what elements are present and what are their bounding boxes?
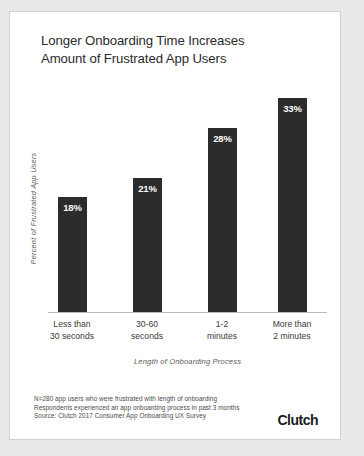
x-tick-label-line: 2 minutes [249, 331, 335, 343]
footnote-respondents: Respondents experienced an app onboardin… [34, 404, 324, 413]
x-tick-label-line: seconds [104, 331, 190, 343]
x-tick-label-line: 30-60 [104, 319, 190, 331]
chart-card: Longer Onboarding Time Increases Amount … [9, 11, 341, 440]
x-tick-label-line: 30 seconds [29, 331, 115, 343]
x-tick-label-2: 30-60 seconds [104, 319, 190, 342]
x-tick-label-1: Less than 30 seconds [29, 319, 115, 342]
x-tick-label-line: Less than [29, 319, 115, 331]
bar-chart: Percent of Frustrated App Users 18% 21% … [10, 12, 341, 440]
bar-less-than-30-seconds: 18% [58, 197, 87, 312]
x-axis-line [48, 312, 327, 313]
bar-value-label: 28% [208, 133, 237, 144]
x-tick-label-line: More than [249, 319, 335, 331]
x-tick-label-4: More than 2 minutes [249, 319, 335, 342]
bar-value-label: 33% [278, 103, 307, 114]
clutch-logo: Clutch [277, 412, 318, 428]
bar-value-label: 21% [133, 183, 162, 194]
footnote-sample-size: N=280 app users who were frustrated with… [34, 395, 324, 404]
bar-1-2-minutes: 28% [208, 128, 237, 312]
x-axis-title: Length of Onboarding Process [48, 357, 327, 366]
bar-more-than-2-minutes: 33% [278, 98, 307, 312]
bar-30-60-seconds: 21% [133, 178, 162, 312]
y-axis-title: Percent of Frustrated App Users [29, 134, 38, 284]
bar-value-label: 18% [58, 202, 87, 213]
